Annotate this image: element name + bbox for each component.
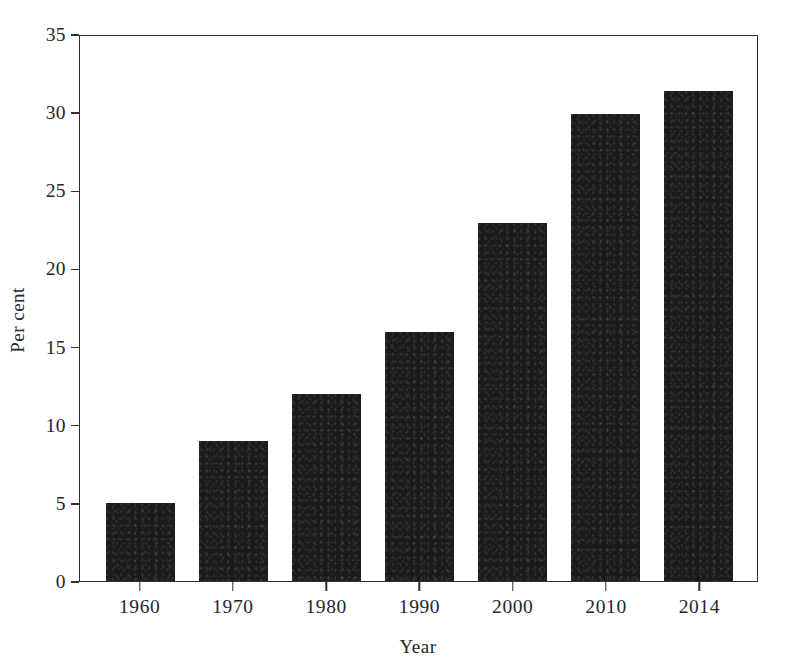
x-axis-label: Year (399, 636, 436, 658)
y-axis-tick-mark (71, 581, 79, 582)
x-axis-tick-label: 2014 (679, 596, 720, 618)
y-axis-label: Per cent (7, 287, 29, 353)
y-axis-tick-label: 25 (46, 180, 66, 202)
bar-slot (187, 36, 280, 581)
x-axis-tick: 1960 (93, 582, 186, 642)
x-axis-tick: 2014 (653, 582, 746, 642)
y-axis-tick-label: 20 (46, 258, 66, 280)
y-axis-tick-label: 5 (56, 493, 66, 515)
bar (478, 223, 547, 581)
y-axis-tick-mark (71, 425, 79, 426)
y-axis-tick-mark (71, 34, 79, 35)
y-axis-tick-label: 0 (56, 571, 66, 593)
bar (385, 332, 454, 581)
bar-slot (280, 36, 373, 581)
x-axis-tick-mark (699, 582, 700, 591)
x-axis-tick-label: 2010 (585, 596, 626, 618)
x-axis-tick-mark (232, 582, 233, 591)
x-axis-tick-mark (326, 582, 327, 591)
y-axis-tick-mark (71, 191, 79, 192)
x-axis-tick: 2000 (466, 582, 559, 642)
bar-chart-figure: Per cent 05101520253035 1960197019801990… (0, 0, 789, 672)
y-axis-tick-label: 15 (46, 337, 66, 359)
x-axis-tick: 1990 (373, 582, 466, 642)
x-axis-tick-label: 1960 (119, 596, 160, 618)
x-axis-tick-mark (512, 582, 513, 591)
x-axis-tick: 1970 (186, 582, 279, 642)
bar (664, 91, 733, 582)
bar-group (80, 36, 757, 581)
x-axis-tick-mark (605, 582, 606, 591)
bar-slot (652, 36, 745, 581)
x-axis-tick-mark (419, 582, 420, 591)
y-axis-tick-mark (71, 503, 79, 504)
bar-slot (559, 36, 652, 581)
x-axis-tick-label: 1970 (212, 596, 253, 618)
y-axis-tick-label: 30 (46, 102, 66, 124)
x-axis-tick-label: 1980 (306, 596, 347, 618)
x-axis-tick: 1980 (280, 582, 373, 642)
bar-slot (373, 36, 466, 581)
x-axis-tick: 2010 (559, 582, 652, 642)
bar-slot (466, 36, 559, 581)
x-axis-tick-mark (139, 582, 140, 591)
bar-slot (94, 36, 187, 581)
x-axis-tick-group: 1960197019801990200020102014 (79, 582, 758, 642)
y-axis-tick-mark (71, 347, 79, 348)
y-axis-tick-label: 35 (46, 24, 66, 46)
plot-area (79, 35, 758, 582)
bar (199, 441, 268, 581)
bar (106, 503, 175, 581)
y-axis-tick-mark (71, 269, 79, 270)
bar (292, 394, 361, 581)
bar (571, 114, 640, 581)
x-axis-tick-label: 1990 (399, 596, 440, 618)
y-axis-tick-mark (71, 112, 79, 113)
x-axis-tick-label: 2000 (492, 596, 533, 618)
y-axis-tick-label: 10 (46, 415, 66, 437)
